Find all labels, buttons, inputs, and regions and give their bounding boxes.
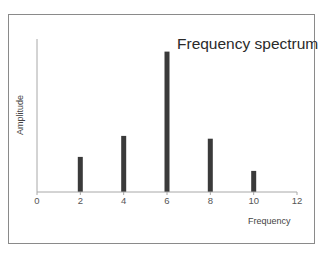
bar: [165, 52, 170, 192]
x-tick-label: 6: [164, 195, 169, 206]
x-tick-label: 12: [292, 195, 303, 206]
bar: [121, 136, 126, 192]
x-ticks: 024681012: [34, 192, 302, 206]
x-tick-label: 0: [34, 195, 39, 206]
x-tick-label: 10: [248, 195, 259, 206]
x-tick-label: 8: [208, 195, 213, 206]
x-axis-label: Frequency: [248, 216, 291, 226]
x-tick-label: 4: [121, 195, 126, 206]
bar: [78, 157, 83, 192]
bars: [78, 52, 256, 192]
bar: [208, 139, 213, 192]
bar: [251, 171, 256, 192]
x-tick-label: 2: [78, 195, 83, 206]
chart-title: Frequency spectrum: [177, 35, 318, 52]
y-axis-label: Amplitude: [15, 95, 25, 135]
frequency-spectrum-chart: 024681012 Frequency spectrum Frequency A…: [0, 0, 327, 256]
